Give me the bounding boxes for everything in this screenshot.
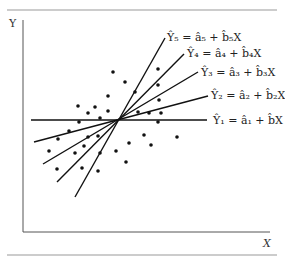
regression-diagram: Y X Ŷ₁ = â₁ + b̂XŶ₂ = â₂ + b̂₂XŶ₃ = â₃ +… bbox=[0, 0, 285, 260]
data-point bbox=[149, 143, 153, 147]
data-point bbox=[98, 151, 102, 155]
data-point bbox=[73, 151, 77, 155]
data-point bbox=[124, 160, 128, 164]
data-point bbox=[55, 167, 59, 171]
data-point bbox=[136, 110, 140, 114]
data-point bbox=[123, 80, 127, 84]
data-point bbox=[111, 70, 115, 74]
data-point bbox=[80, 166, 84, 170]
line-label-1: Ŷ₁ = â₁ + b̂X bbox=[212, 113, 283, 127]
data-point bbox=[157, 98, 161, 102]
data-point bbox=[114, 149, 118, 153]
x-axis-label: X bbox=[262, 237, 272, 250]
data-point bbox=[159, 111, 163, 115]
regression-lines: Ŷ₁ = â₁ + b̂XŶ₂ = â₂ + b̂₂XŶ₃ = â₃ + b̂₃… bbox=[31, 30, 285, 197]
data-point bbox=[86, 111, 90, 115]
data-point bbox=[156, 120, 160, 124]
data-point bbox=[56, 137, 60, 141]
data-point bbox=[156, 67, 160, 71]
line-label-4: Ŷ₄ = â₄ + b̂₄X bbox=[186, 46, 262, 60]
data-point bbox=[76, 104, 80, 108]
data-point bbox=[106, 109, 110, 113]
line-label-5: Ŷ₅ = â₅ + b̂₅X bbox=[166, 30, 242, 44]
data-point bbox=[133, 90, 137, 94]
data-point bbox=[142, 133, 146, 137]
data-point bbox=[47, 149, 51, 153]
data-point bbox=[96, 134, 100, 138]
y-axis-label: Y bbox=[8, 17, 17, 30]
data-point bbox=[77, 120, 81, 124]
data-point bbox=[175, 135, 179, 139]
data-point bbox=[86, 135, 90, 139]
data-point bbox=[96, 169, 100, 173]
line-label-2: Ŷ₂ = â₂ + b̂₂X bbox=[210, 88, 285, 102]
data-point bbox=[156, 83, 160, 87]
data-point bbox=[82, 144, 86, 148]
data-point bbox=[147, 111, 151, 115]
regression-line-5 bbox=[75, 38, 165, 197]
data-point bbox=[98, 116, 102, 120]
data-point bbox=[127, 141, 131, 145]
regression-line-2 bbox=[34, 96, 208, 142]
line-label-3: Ŷ₃ = â₃ + b̂₃X bbox=[200, 65, 276, 79]
data-point bbox=[93, 105, 97, 109]
data-point bbox=[106, 94, 110, 98]
data-point bbox=[67, 129, 71, 133]
